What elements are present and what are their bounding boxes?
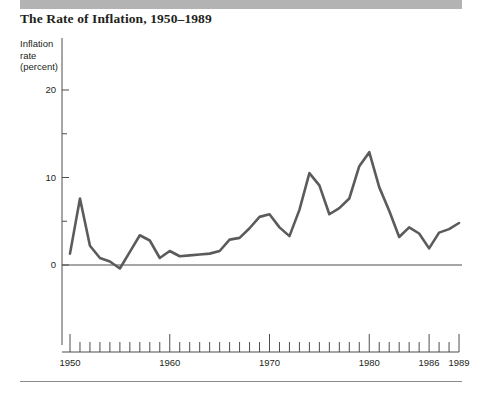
x-axis-tick-label: 1960: [150, 357, 190, 368]
chart-axes: [62, 38, 462, 352]
x-axis-tick-label: 1980: [349, 357, 389, 368]
bottom-divider: [20, 381, 462, 382]
x-axis-tick-label: 1989: [439, 357, 479, 368]
x-axis-tick-label: 1970: [250, 357, 290, 368]
data-line-inflation-rate: [70, 152, 459, 268]
plot-area: [0, 0, 486, 395]
x-axis-tick-label: 1950: [50, 357, 90, 368]
y-axis-tick-label: 20: [26, 84, 56, 95]
y-axis-tick-label: 10: [26, 172, 56, 183]
chart-series: [70, 152, 459, 268]
chart-figure: The Rate of Inflation, 1950–1989 Inflati…: [0, 0, 486, 395]
y-axis-tick-label: 0: [26, 259, 56, 270]
